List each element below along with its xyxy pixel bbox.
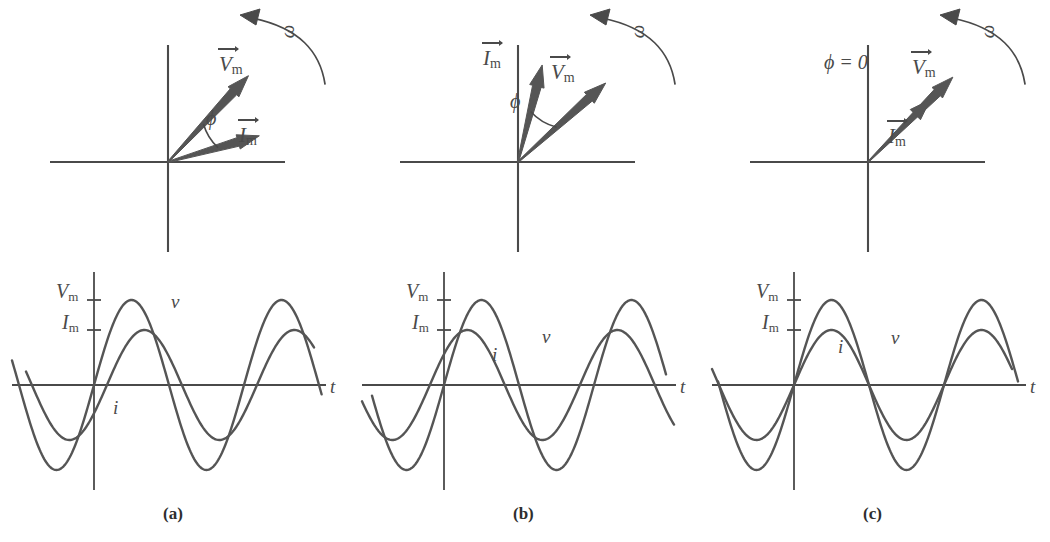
- current-symbol: I: [239, 123, 246, 147]
- t-axis-label-b: t: [680, 377, 685, 396]
- i-curve-label-a: i: [113, 398, 118, 417]
- vector-arrow-icon: [482, 42, 502, 44]
- current-subscript: m: [895, 134, 906, 149]
- vm-tick-label-c: Vm: [756, 281, 778, 303]
- current-phasor-label-c: Im: [888, 126, 906, 149]
- omega-glyph: ω: [977, 25, 998, 38]
- phi-label-b: ϕ: [510, 91, 520, 111]
- voltage-symbol: V: [551, 60, 564, 84]
- omega-arrowhead-icon: [940, 9, 960, 25]
- current-symbol: I: [483, 46, 490, 70]
- phi-zero-label-c: ϕ = 0: [824, 52, 868, 72]
- vector-arrow-icon: [218, 48, 238, 50]
- panel-c: ω ϕ = 0 Vm Im Vm Im t v i (c): [700, 0, 1050, 542]
- voltage-subscript: m: [925, 65, 936, 80]
- phi-label-a: ϕ: [206, 108, 216, 128]
- omega-glyph: ω: [627, 25, 648, 38]
- v-curve-label-c: v: [891, 328, 899, 347]
- voltage-symbol: V: [912, 55, 925, 79]
- current-phasor-arrow: [517, 65, 544, 162]
- omega-arrowhead-icon: [240, 9, 260, 25]
- omega-label-a: ω: [278, 25, 297, 38]
- im-tick-label-a: Im: [62, 312, 79, 334]
- vm-tick-label-b: Vm: [406, 281, 428, 303]
- current-subscript: m: [246, 133, 257, 148]
- current-subscript: m: [490, 56, 501, 71]
- current-symbol: I: [888, 124, 895, 148]
- current-phasor-label-b: Im: [483, 48, 501, 71]
- im-tick-label-b: Im: [412, 312, 429, 334]
- voltage-phasor-label-a: Vm: [219, 54, 243, 77]
- vector-arrow-icon: [911, 51, 931, 53]
- panel-c-graphics: [700, 0, 1050, 542]
- panel-a-graphics: [0, 0, 350, 542]
- caption-b: (b): [513, 505, 534, 522]
- caption-c: (c): [863, 505, 882, 522]
- vector-arrow-icon: [887, 120, 907, 122]
- voltage-subscript: m: [232, 62, 243, 77]
- v-curve-label-b: v: [542, 327, 550, 346]
- voltage-phasor-label-b: Vm: [551, 62, 575, 85]
- omega-arrowhead-icon: [590, 9, 610, 25]
- vector-arrow-icon: [550, 56, 570, 58]
- panel-b: ω Im Vm ϕ Vm Im t v i (b): [350, 0, 700, 542]
- vm-tick-label-a: Vm: [56, 281, 78, 303]
- caption-a: (a): [163, 505, 183, 522]
- physics-figure: ω Vm Im ϕ Vm Im t v i (a): [0, 0, 1050, 542]
- voltage-phasor-arrow: [868, 77, 953, 162]
- i-curve-label-c: i: [838, 337, 843, 356]
- im-tick-label-c: Im: [762, 312, 779, 334]
- current-phasor-label-a: Im: [239, 125, 257, 148]
- t-axis-label-c: t: [1030, 377, 1035, 396]
- voltage-subscript: m: [564, 70, 575, 85]
- vector-arrow-icon: [238, 119, 258, 121]
- i-curve-label-b: i: [492, 345, 497, 364]
- omega-label-c: ω: [978, 25, 997, 38]
- v-curve-label-a: v: [171, 292, 179, 311]
- phi-arc: [531, 112, 557, 128]
- panel-b-graphics: [350, 0, 700, 542]
- voltage-symbol: V: [219, 52, 232, 76]
- omega-glyph: ω: [277, 25, 298, 38]
- t-axis-label-a: t: [330, 377, 335, 396]
- panel-a: ω Vm Im ϕ Vm Im t v i (a): [0, 0, 350, 542]
- voltage-phasor-label-c: Vm: [912, 57, 936, 80]
- omega-label-b: ω: [628, 25, 647, 38]
